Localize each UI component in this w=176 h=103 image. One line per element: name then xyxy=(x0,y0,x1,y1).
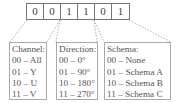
channel-connector-right xyxy=(47,20,60,42)
legend-row: 01 – Y xyxy=(12,67,44,78)
bit-cell: 1 xyxy=(61,4,78,19)
schema-connector-left xyxy=(94,20,104,42)
bit-cell: 0 xyxy=(27,4,44,19)
schema-connector-right xyxy=(129,20,171,42)
legend-row: 00 – All xyxy=(12,55,44,66)
bit-cell: 1 xyxy=(78,4,95,19)
legend-row: 01 – Schema A xyxy=(107,67,168,78)
legend-row: 00 – None xyxy=(107,55,168,66)
legend-row: 10 – U xyxy=(12,78,44,89)
schema-legend: Schema: 00 – None 01 – Schema A 10 – Sch… xyxy=(104,42,171,100)
legend-row: 00 – 0° xyxy=(59,55,95,66)
channel-legend: Channel: 00 – All 01 – Y 10 – U 11 – V xyxy=(9,42,47,100)
legend-row: 01 – 90° xyxy=(59,67,95,78)
legend-row: 10 – 180° xyxy=(59,78,95,89)
bit-field: 0 0 1 1 0 1 xyxy=(26,3,130,20)
legend-row: 11 – 270° xyxy=(59,89,95,100)
legend-row: 10 – Schema B xyxy=(107,78,168,89)
channel-connector-left xyxy=(10,20,27,42)
legend-title: Channel: xyxy=(12,44,44,55)
legend-title: Schema: xyxy=(107,44,168,55)
direction-legend: Direction: 00 – 0° 01 – 90° 10 – 180° 11… xyxy=(56,42,98,100)
bit-cell: 0 xyxy=(95,4,112,19)
legend-title: Direction: xyxy=(59,44,95,55)
bit-cell: 0 xyxy=(44,4,61,19)
bit-cell: 1 xyxy=(112,4,129,19)
legend-row: 11 – V xyxy=(12,89,44,100)
legend-row: 11 – Schema C xyxy=(107,89,168,100)
